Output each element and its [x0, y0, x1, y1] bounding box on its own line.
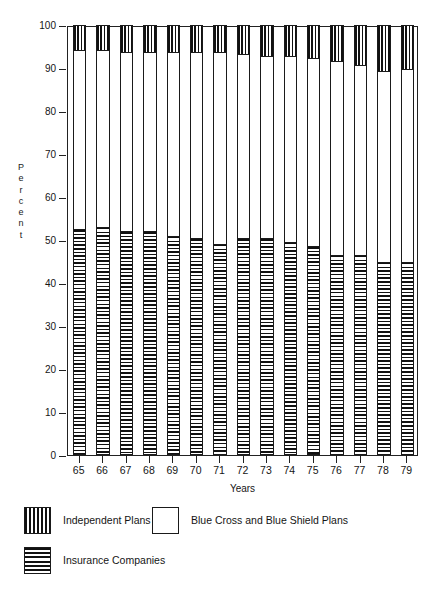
bar-segment-vertical-stripes — [143, 25, 157, 53]
y-axis-tick-label: 30 — [28, 322, 56, 332]
bar-75 — [307, 25, 321, 455]
bar-segment-solid-white — [237, 55, 251, 238]
y-axis-tick-label: 70 — [28, 150, 56, 160]
bar-segment-solid-white — [354, 66, 368, 255]
x-axis-tick-label: 75 — [301, 464, 325, 476]
x-axis-tick-label: 66 — [90, 464, 114, 476]
bar-segment-vertical-stripes — [377, 25, 391, 72]
bar-segment-vertical-stripes — [354, 25, 368, 66]
bars-container — [68, 27, 417, 455]
x-axis-tick-mark — [266, 456, 267, 463]
bar-segment-vertical-stripes — [284, 25, 298, 57]
y-axis-tick-mark — [59, 413, 66, 414]
legend-item: Blue Cross and Blue Shield Plans — [152, 505, 348, 535]
y-axis-title-letter: t — [14, 230, 28, 241]
bar-74 — [284, 25, 298, 455]
y-axis-tick-label: 80 — [28, 107, 56, 117]
bar-78 — [377, 25, 391, 455]
bar-segment-vertical-stripes — [190, 25, 204, 53]
x-axis-tick-mark — [219, 456, 220, 463]
chart-legend: Independent PlansBlue Cross and Blue Shi… — [0, 505, 439, 597]
y-axis-tick-label: 0 — [28, 451, 56, 461]
bar-segment-horizontal-stripes — [96, 227, 110, 455]
x-axis-tick-mark — [336, 456, 337, 463]
plot-area — [67, 26, 418, 456]
bar-70 — [190, 25, 204, 455]
y-axis-tick-label: 60 — [28, 193, 56, 203]
x-axis-tick-mark — [126, 456, 127, 463]
x-axis-tick-mark — [406, 456, 407, 463]
x-axis-tick-mark — [243, 456, 244, 463]
bar-77 — [354, 25, 368, 455]
bar-segment-horizontal-stripes — [330, 255, 344, 455]
legend-row: Independent PlansBlue Cross and Blue Shi… — [0, 505, 439, 535]
x-axis-tick-label: 74 — [277, 464, 301, 476]
x-axis-tick-label: 77 — [348, 464, 372, 476]
bar-segment-vertical-stripes — [260, 25, 274, 57]
legend-item: Insurance Companies — [24, 545, 165, 575]
bar-segment-horizontal-stripes — [284, 242, 298, 455]
legend-swatch-horizontal-stripes — [24, 547, 51, 574]
y-axis-title-letter: P — [14, 162, 28, 173]
bar-segment-solid-white — [401, 70, 415, 261]
x-axis-tick-mark — [289, 456, 290, 463]
x-axis-tick-mark — [313, 456, 314, 463]
bar-segment-vertical-stripes — [96, 25, 110, 51]
x-axis-title: Years — [67, 483, 418, 494]
bar-segment-solid-white — [73, 51, 87, 229]
y-axis-tick-label: 20 — [28, 365, 56, 375]
bar-segment-solid-white — [143, 53, 157, 231]
bar-segment-solid-white — [167, 53, 181, 236]
bar-segment-horizontal-stripes — [167, 236, 181, 455]
y-axis-tick-mark — [59, 155, 66, 156]
legend-row: Insurance Companies — [0, 545, 439, 575]
y-axis-title-letter: n — [14, 218, 28, 229]
y-axis-tick-mark — [59, 456, 66, 457]
bar-segment-solid-white — [330, 62, 344, 256]
bar-segment-solid-white — [260, 57, 274, 238]
x-axis-tick-mark — [360, 456, 361, 463]
legend-item: Independent Plans — [24, 505, 151, 535]
bar-66 — [96, 25, 110, 455]
y-axis-tick-mark — [59, 284, 66, 285]
y-axis-title-letter: r — [14, 185, 28, 196]
x-axis-tick-label: 72 — [231, 464, 255, 476]
x-axis-tick-label: 79 — [394, 464, 418, 476]
x-axis-tick-marks — [67, 456, 418, 464]
bar-segment-vertical-stripes — [120, 25, 134, 53]
y-axis-title-letter: e — [14, 173, 28, 184]
x-axis-tick-labels: 656667686970717273747576777879 — [67, 464, 418, 480]
legend-label: Blue Cross and Blue Shield Plans — [191, 514, 348, 527]
x-axis-tick-label: 78 — [371, 464, 395, 476]
bar-segment-horizontal-stripes — [260, 238, 274, 455]
stacked-bar-chart-figure: Percent 0102030405060708090100 656667686… — [0, 0, 439, 603]
bar-segment-vertical-stripes — [401, 25, 415, 70]
bar-segment-solid-white — [377, 72, 391, 261]
bar-67 — [120, 25, 134, 455]
x-axis-tick-mark — [102, 456, 103, 463]
y-axis-title: Percent — [14, 162, 28, 241]
bar-segment-horizontal-stripes — [354, 255, 368, 455]
bar-segment-solid-white — [284, 57, 298, 242]
bar-segment-horizontal-stripes — [401, 262, 415, 456]
bar-segment-vertical-stripes — [237, 25, 251, 55]
bar-73 — [260, 25, 274, 455]
x-axis-tick-label: 69 — [160, 464, 184, 476]
y-axis-tick-label: 40 — [28, 279, 56, 289]
x-axis-tick-mark — [383, 456, 384, 463]
legend-swatch-vertical-stripes — [24, 507, 51, 534]
y-axis-tick-label: 10 — [28, 408, 56, 418]
y-axis-tick-label: 100 — [28, 21, 56, 31]
x-axis-tick-mark — [196, 456, 197, 463]
bar-79 — [401, 25, 415, 455]
y-axis-tick-label: 50 — [28, 236, 56, 246]
y-axis-tick-mark — [59, 241, 66, 242]
bar-segment-horizontal-stripes — [120, 231, 134, 455]
bar-segment-horizontal-stripes — [213, 244, 227, 455]
y-axis-tick-mark — [59, 69, 66, 70]
x-axis-tick-label: 76 — [324, 464, 348, 476]
y-axis-tick-mark — [59, 26, 66, 27]
bar-segment-solid-white — [190, 53, 204, 238]
bar-segment-horizontal-stripes — [73, 229, 87, 455]
legend-swatch-solid-white — [152, 507, 179, 534]
